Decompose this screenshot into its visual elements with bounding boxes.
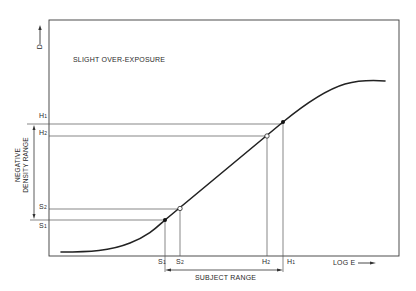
x-axis-label: LOG E: [333, 259, 355, 266]
x-marker-s1: S1: [158, 258, 166, 265]
d-axis-label: D: [36, 44, 43, 49]
x-marker-h1: H1: [287, 258, 295, 265]
y-marker-h2: H2: [39, 129, 47, 136]
point-s2-open: [178, 206, 182, 210]
d-axis-arrow-icon: [38, 25, 41, 44]
y-marker-h1: H1: [39, 112, 47, 119]
point-h1-filled: [281, 120, 285, 124]
y-marker-s1: S1: [39, 222, 47, 229]
characteristic-curve-diagram: [0, 0, 416, 291]
x-marker-h2: H2: [262, 258, 270, 265]
y-marker-s2: S2: [39, 203, 47, 210]
x-marker-s2: S2: [176, 258, 184, 265]
diagram-title: SLIGHT OVER-EXPOSURE: [73, 56, 165, 63]
point-s1-filled: [163, 218, 167, 222]
characteristic-curve: [61, 80, 385, 252]
point-h2-open: [265, 134, 269, 138]
subject-range-arrow-icon: [165, 268, 283, 271]
log-e-arrow-icon: [358, 261, 376, 264]
subject-range-label: SUBJECT RANGE: [195, 274, 256, 281]
negative-density-range-label: NEGATIVE DENSITY RANGE: [14, 135, 34, 195]
